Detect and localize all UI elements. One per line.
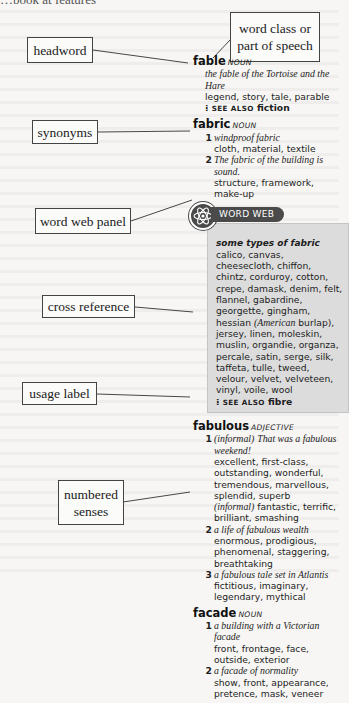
sense-number: 1 <box>205 620 212 631</box>
callout-cross-reference: cross reference <box>42 295 135 318</box>
usage-note: (American <box>254 317 295 328</box>
entry-facade: facadenoun 1a building with a Victorian … <box>193 608 339 699</box>
example: a fabulous tale set in Atlantis <box>214 569 328 580</box>
synonyms: front, frontage, face, outside, exterior <box>214 643 339 666</box>
part-of-speech: adjective <box>251 423 294 432</box>
see-also-label: see also <box>212 104 254 113</box>
synonyms: show, front, appearance, pretence, mask,… <box>214 677 339 700</box>
callout-word-web-panel: word web panel <box>35 208 131 234</box>
sense-number: 1 <box>205 433 212 444</box>
word-web-box: some types of fabric calico, canvas, che… <box>207 223 349 413</box>
part-of-speech: noun <box>228 58 252 67</box>
example: a life of fabulous wealth <box>214 524 309 535</box>
sense-number: 1 <box>205 132 212 143</box>
sense-number: 2 <box>205 524 212 535</box>
callout-text: word class or <box>239 20 311 37</box>
callout-text: cross reference <box>48 298 129 315</box>
word-list: burlap), <box>298 317 334 328</box>
headword: fable <box>193 54 226 68</box>
dictionary-entries: fablenoun the fable of the Tortoise and … <box>193 56 339 703</box>
synonyms: structure, framework, make-up <box>214 177 339 200</box>
cross-reference: ⁞ see also fiction <box>205 102 339 114</box>
sense-number: 2 <box>205 665 212 676</box>
synonyms: legend, story, tale, parable <box>205 91 339 102</box>
example: a building with a Victorian facade <box>214 620 319 642</box>
sense-2: 2a facade of normality show, front, appe… <box>205 665 339 699</box>
arrow-icon: ⁞ <box>205 102 209 113</box>
sense-2: 2a life of fabulous wealth enormous, pro… <box>205 524 339 569</box>
example: The fabric of the building is sound. <box>214 154 323 176</box>
sense-2: 2The fabric of the building is sound. st… <box>205 154 339 199</box>
arrow-icon: ⁞ <box>216 396 220 407</box>
callout-text: usage label <box>29 385 89 402</box>
callout-text: part of speech <box>237 37 313 54</box>
example: windproof fabric <box>214 132 280 143</box>
part-of-speech: noun <box>238 610 262 619</box>
synonyms: fictitious, imaginary, legendary, mythic… <box>214 580 339 603</box>
part-of-speech: noun <box>232 121 256 130</box>
example: the fable of the Tortoise and the Hare <box>205 68 339 91</box>
see-also-label: see also <box>223 398 265 407</box>
callout-text: senses <box>74 503 109 520</box>
sense-1: 1windproof fabric cloth, material, texti… <box>205 132 339 155</box>
see-also-link[interactable]: fibre <box>268 396 292 407</box>
word-list: jersey, linen, moleskin, muslin, organdi… <box>216 328 339 395</box>
sense-1: 1a building with a Victorian facade fron… <box>205 620 339 665</box>
entry-fabric: fabricnoun 1windproof fabric cloth, mate… <box>193 119 339 413</box>
synonyms: excellent, first-class, outstanding, won… <box>214 456 339 501</box>
callout-word-class: word class or part of speech <box>230 12 320 62</box>
see-also-link[interactable]: fiction <box>257 102 290 113</box>
sense-number: 3 <box>205 569 212 580</box>
sense-number: 2 <box>205 154 212 165</box>
entry-fable: fablenoun the fable of the Tortoise and … <box>193 56 339 114</box>
callout-text: headword <box>33 42 86 59</box>
word-web-panel: WORD WEB some types of fabric calico, ca… <box>201 204 339 413</box>
callout-text: numbered <box>64 486 118 503</box>
example: a facade of normality <box>214 665 298 676</box>
callout-text: word web panel <box>40 213 126 230</box>
cross-reference: ⁞ see also fibre <box>216 396 344 408</box>
headword: fabric <box>193 117 230 131</box>
word-web-tab: WORD WEB <box>211 207 284 222</box>
word-web-header: WORD WEB <box>201 204 339 226</box>
headword: fabulous <box>193 419 249 433</box>
usage-label: (informal) <box>214 433 254 444</box>
callout-numbered-senses: numbered senses <box>58 480 124 525</box>
callout-usage-label: usage label <box>22 382 97 405</box>
callout-synonyms: synonyms <box>32 120 98 144</box>
usage-label: (informal) <box>214 501 254 512</box>
synonyms: enormous, prodigious, phenomenal, stagge… <box>214 535 339 569</box>
word-web-list: calico, canvas, cheesecloth, chiffon, ch… <box>216 249 344 396</box>
sense-3: 3a fabulous tale set in Atlantis fictiti… <box>205 569 339 603</box>
synonyms: cloth, material, textile <box>214 143 339 154</box>
headword: facade <box>193 606 236 620</box>
entry-fabulous: fabulousadjective 1(informal) That was a… <box>193 421 339 603</box>
callout-text: synonyms <box>38 124 93 141</box>
sense-1: 1(informal) That was a fabulous weekend!… <box>205 433 339 523</box>
word-web-title: some types of fabric <box>216 238 344 249</box>
callout-headword: headword <box>27 37 93 63</box>
